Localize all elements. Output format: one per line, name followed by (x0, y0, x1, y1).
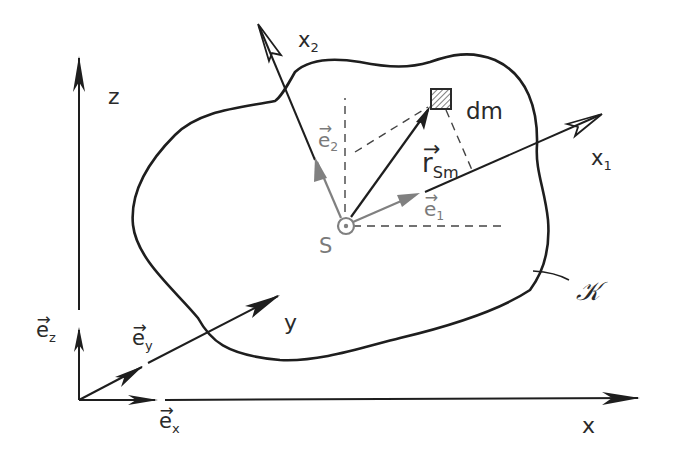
x2-base: x (298, 28, 310, 52)
x1-sub: 1 (603, 158, 611, 173)
r-sm-base: r (422, 150, 433, 176)
center-of-mass-dot (344, 224, 348, 228)
ez-sub: z (49, 330, 56, 345)
x-axis-label: x (582, 415, 595, 437)
ex-label: ex (159, 411, 180, 435)
rigid-body-diagram: z x y ez ey ex x2 x1 e2 e1 rSm dm S 𝒦 (0, 0, 674, 462)
z-axis-label: z (108, 86, 120, 108)
r-sm-sub: Sm (433, 163, 459, 182)
x2-sub: 2 (310, 40, 318, 55)
mass-element-label: dm (466, 100, 503, 123)
r-sm-arrowhead-icon (416, 106, 430, 130)
ey-sub: y (145, 338, 153, 353)
x1-base: x (591, 146, 603, 170)
ex-base: e (159, 411, 172, 432)
x2-axis-label: x2 (298, 30, 319, 54)
y-axis-arrowhead-icon (245, 295, 280, 318)
x1-axis-arrowhead-icon (567, 114, 602, 136)
ey-label: ey (132, 328, 153, 352)
e1-sub: 1 (436, 208, 444, 223)
e1-label: e1 (424, 199, 444, 223)
ez-label: ez (36, 320, 56, 344)
r-sm-vector (351, 110, 428, 217)
body-label: 𝒦 (576, 278, 600, 304)
x-axis (165, 398, 638, 400)
e2-label: e2 (318, 130, 338, 154)
mass-element-icon (431, 89, 451, 109)
ex-sub: x (172, 421, 180, 436)
ez-base: e (36, 320, 49, 341)
y-axis-label: y (284, 312, 297, 334)
e1-base: e (424, 199, 436, 219)
e2-arrowhead-icon (314, 157, 327, 182)
r-sm-label: rSm (422, 150, 459, 181)
x1-axis-label: x1 (591, 148, 612, 172)
ey-base: e (132, 328, 145, 349)
ey-arrowhead-icon (115, 366, 143, 387)
diagram-drawing (0, 0, 674, 462)
e1-arrowhead-icon (397, 193, 420, 207)
e2-base: e (318, 130, 330, 150)
x2-axis-arrowhead-icon (258, 24, 281, 61)
e2-sub: 2 (330, 139, 338, 154)
center-of-mass-label: S (319, 236, 332, 257)
